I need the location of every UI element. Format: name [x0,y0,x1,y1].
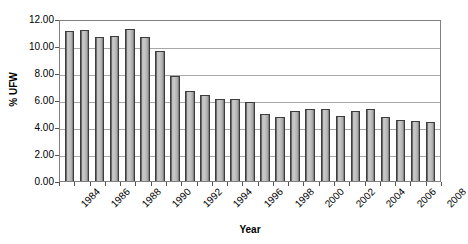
x-axis-title: Year [59,224,441,235]
bar[interactable] [185,91,195,181]
x-axis-tick-label: 2008 [445,186,468,210]
x-axis-tick-label: 1992 [200,186,224,210]
x-axis-tick-label: 2002 [353,186,377,210]
bar-slot [182,21,197,181]
bar-slot [167,21,182,181]
bar[interactable] [65,31,75,181]
y-axis-tick-label: 4.00 [8,123,54,133]
bar[interactable] [245,102,255,181]
y-axis-tick-label: 6.00 [8,96,54,106]
bar[interactable] [396,120,406,181]
bar-slot [333,21,348,181]
bar[interactable] [321,109,331,181]
bar[interactable] [351,111,361,181]
bar-slot [318,21,333,181]
bar[interactable] [275,117,285,181]
bar[interactable] [305,109,315,181]
bar[interactable] [230,99,240,181]
bar-slot [197,21,212,181]
plot-area [59,20,441,182]
bar-slot [348,21,363,181]
bar-slot [273,21,288,181]
bar[interactable] [125,29,135,181]
bar-slot [363,21,378,181]
bar[interactable] [80,30,90,181]
bar-slot [77,21,92,181]
bar-slot [92,21,107,181]
x-axis-tick-label: 2004 [384,186,408,210]
bar[interactable] [155,51,165,181]
bar-slot [107,21,122,181]
bar[interactable] [411,121,421,181]
bar-slot [62,21,77,181]
bar-slot [423,21,438,181]
bar-slot [137,21,152,181]
x-axis-tick-label: 1990 [170,186,194,210]
bar-slot [303,21,318,181]
y-axis-tick-label: 8.00 [8,69,54,79]
x-axis-tick-label: 1996 [262,186,286,210]
bar[interactable] [170,76,180,181]
bar[interactable] [140,37,150,181]
bar[interactable] [290,111,300,181]
bar[interactable] [336,116,346,181]
x-axis-tick-mark [441,182,442,186]
bar[interactable] [260,114,270,181]
bar-slot [212,21,227,181]
y-axis-tick-label: 10.00 [8,42,54,52]
bar-slot [152,21,167,181]
y-axis-tick-label: 0.00 [8,177,54,187]
x-axis-tick-label: 1986 [109,186,133,210]
bar-slot [408,21,423,181]
x-axis-tick-label: 1988 [139,186,163,210]
x-axis-tick-label: 1994 [231,186,255,210]
bar[interactable] [366,109,376,181]
x-axis-tick-label: 1998 [292,186,316,210]
bar-slot [122,21,137,181]
x-axis-tick-label: 1984 [78,186,102,210]
bar[interactable] [110,36,120,181]
bar-series [60,21,440,181]
y-axis-tick-label: 2.00 [8,150,54,160]
x-axis-tick-label: 2000 [323,186,347,210]
bar-slot [378,21,393,181]
x-axis-tick-labels: 1984198619881990199219941996199820002002… [59,186,441,220]
bar[interactable] [200,95,210,181]
bar-slot [393,21,408,181]
y-axis-tick-label: 12.00 [8,15,54,25]
bar-slot [258,21,273,181]
bar[interactable] [426,122,436,181]
bar-slot [228,21,243,181]
bar-slot [288,21,303,181]
bar[interactable] [215,99,225,181]
bar[interactable] [381,117,391,181]
bar[interactable] [95,37,105,181]
bar-slot [243,21,258,181]
x-axis-tick-label: 2006 [414,186,438,210]
